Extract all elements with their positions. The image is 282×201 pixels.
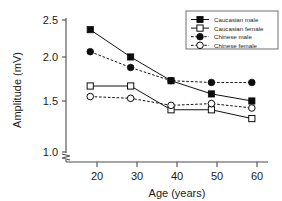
y-axis-title: Amplitude (mV): [11, 52, 23, 128]
legend-marker: [197, 25, 203, 31]
series-chinese-male: [87, 48, 255, 85]
y-tick-label-2-0: 2.0: [43, 51, 58, 63]
y-tick-label-1-5: 1.5: [43, 95, 58, 107]
series-chinese-female: [87, 93, 255, 111]
legend-item-caucasian-female[interactable]: Caucasian female: [191, 25, 264, 32]
data-point: [87, 48, 94, 55]
legend-label: Caucasian male: [214, 16, 259, 23]
data-point: [128, 54, 134, 60]
data-point: [208, 100, 215, 107]
legend-label: Chinese male: [214, 33, 252, 40]
x-axis-ticks: [97, 162, 257, 167]
y-tick-label-1-0: 1.0: [43, 146, 58, 158]
data-point: [168, 102, 175, 109]
data-point: [127, 64, 134, 71]
legend-item-chinese-male[interactable]: Chinese male: [191, 33, 252, 40]
data-point: [87, 27, 93, 33]
legend-marker: [197, 33, 204, 40]
x-tick-label-50: 50: [211, 170, 223, 182]
x-tick-label-30: 30: [131, 170, 143, 182]
data-point: [208, 79, 215, 86]
legend-label: Chinese female: [214, 42, 258, 49]
x-tick-label-20: 20: [91, 170, 103, 182]
chart-canvas: 2.5 2.0 1.5 1.0 20 30 40 50 60 Age (year…: [0, 0, 282, 201]
x-axis-title: Age (years): [149, 187, 206, 199]
legend-marker: [197, 42, 204, 49]
legend-marker: [197, 16, 203, 22]
x-tick-label-40: 40: [171, 170, 183, 182]
data-point: [208, 91, 214, 97]
data-point: [208, 107, 214, 113]
legend-label: Caucasian female: [214, 25, 264, 32]
data-point: [249, 79, 256, 86]
amplitude-vs-age-chart: 2.5 2.0 1.5 1.0 20 30 40 50 60 Age (year…: [0, 0, 282, 201]
data-point: [127, 95, 134, 102]
legend-item-chinese-female[interactable]: Chinese female: [191, 42, 258, 49]
data-point: [128, 83, 134, 89]
y-axis-ticks: [62, 20, 66, 152]
data-point: [168, 77, 175, 84]
x-tick-label-60: 60: [251, 170, 263, 182]
data-point: [87, 83, 93, 89]
legend: Caucasian maleCaucasian femaleChinese ma…: [186, 11, 278, 49]
y-tick-label-2-5: 2.5: [43, 14, 58, 26]
data-point: [249, 98, 255, 104]
legend-item-caucasian-male[interactable]: Caucasian male: [191, 16, 259, 23]
data-point: [87, 93, 94, 100]
data-point: [249, 115, 255, 121]
data-point: [249, 105, 256, 112]
